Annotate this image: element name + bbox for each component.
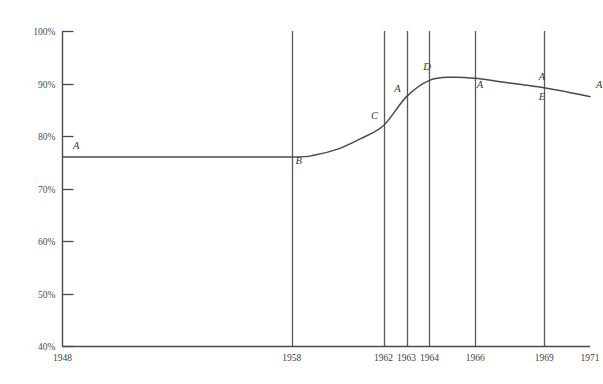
line-chart: 40%50%60%70%80%90%100% 19481958196219631… <box>0 0 603 384</box>
x-tick-label-1964: 1964 <box>420 353 439 363</box>
y-tick-label-80%: 80% <box>38 132 56 142</box>
x-tick-label-1971: 1971 <box>581 353 600 363</box>
chart-container: 40%50%60%70%80%90%100% 19481958196219631… <box>0 0 603 384</box>
annotation-label-a-3: A <box>393 83 401 94</box>
x-tick-label-1963: 1963 <box>397 353 416 363</box>
x-tick-label-1962: 1962 <box>374 353 393 363</box>
annotation-label-d-4: D <box>422 61 431 72</box>
annotation-label-a-5: A <box>476 79 484 90</box>
y-tick-label-40%: 40% <box>38 342 56 352</box>
y-tick-label-50%: 50% <box>38 290 56 300</box>
y-tick-label-90%: 90% <box>38 80 56 90</box>
x-tick-label-1958: 1958 <box>282 353 301 363</box>
y-tick-label-60%: 60% <box>38 237 56 247</box>
y-tick-label-70%: 70% <box>38 185 56 195</box>
x-tick-label-1969: 1969 <box>535 353 554 363</box>
annotation-label-a-8: A <box>595 79 603 90</box>
y-tick-label-100%: 100% <box>33 27 55 37</box>
annotation-label-b-1: B <box>296 155 303 166</box>
x-tick-label-1966: 1966 <box>466 353 485 363</box>
annotation-label-a-6: A <box>538 71 546 82</box>
annotation-label-c-2: C <box>371 110 379 121</box>
annotation-label-a-0: A <box>72 140 80 151</box>
annotation-label-e-7: E <box>538 91 546 102</box>
chart-background <box>0 0 603 384</box>
x-tick-label-1948: 1948 <box>53 353 72 363</box>
